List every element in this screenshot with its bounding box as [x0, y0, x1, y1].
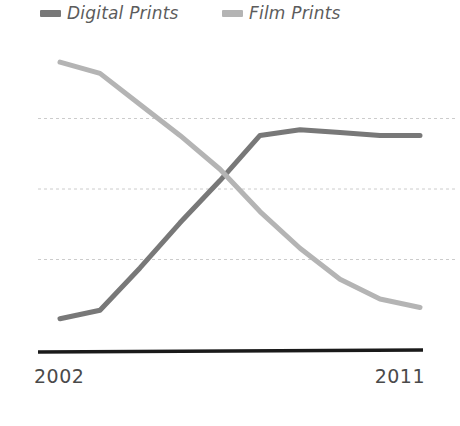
x-axis-tick-label-end: 2011	[375, 365, 425, 387]
series-line-film-prints	[60, 62, 420, 307]
x-axis-line	[38, 350, 423, 352]
x-axis-tick-label-start: 2002	[34, 365, 84, 387]
series-lines	[60, 62, 420, 319]
chart-container: Digital Prints Film Prints 2002 2011	[0, 0, 460, 426]
chart-svg	[0, 0, 460, 426]
plot-area: 2002 2011	[0, 0, 460, 426]
gridlines	[38, 119, 455, 260]
